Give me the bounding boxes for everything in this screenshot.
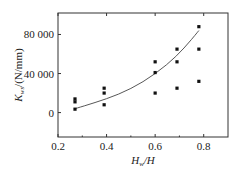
plot-frame (58, 13, 228, 137)
data-points (73, 25, 200, 111)
x-tick-label: 0.8 (197, 140, 211, 152)
data-point-marker (154, 60, 157, 63)
y-axis-ticks: 040 00080 000 (24, 28, 61, 118)
x-tick-label: 0.6 (148, 140, 162, 152)
data-point-marker (73, 100, 76, 103)
data-point-marker (103, 87, 106, 90)
scatter-chart: 0.20.40.60.8 040 00080 000 Hw/H Kws/(N/m… (0, 0, 241, 172)
data-point-marker (175, 60, 178, 63)
data-point-marker (73, 108, 76, 111)
x-axis-ticks: 0.20.40.60.8 (51, 13, 211, 152)
x-tick-label: 0.2 (51, 140, 65, 152)
x-tick-label: 0.4 (100, 140, 114, 152)
x-axis-label: Hw/H (130, 154, 156, 168)
data-point-marker (73, 97, 76, 100)
data-point-marker (197, 48, 200, 51)
data-point-marker (103, 91, 106, 94)
fit-curve (75, 31, 199, 109)
y-tick-label: 0 (49, 107, 55, 119)
y-axis-label: Kws/(N/mm) (12, 48, 26, 103)
y-tick-label: 80 000 (24, 28, 55, 40)
y-tick-label: 40 000 (24, 68, 55, 80)
data-point-marker (197, 80, 200, 83)
data-point-marker (103, 103, 106, 106)
data-point-marker (175, 87, 178, 90)
data-point-marker (154, 91, 157, 94)
data-point-marker (197, 25, 200, 28)
data-point-marker (175, 48, 178, 51)
data-point-marker (154, 71, 157, 74)
